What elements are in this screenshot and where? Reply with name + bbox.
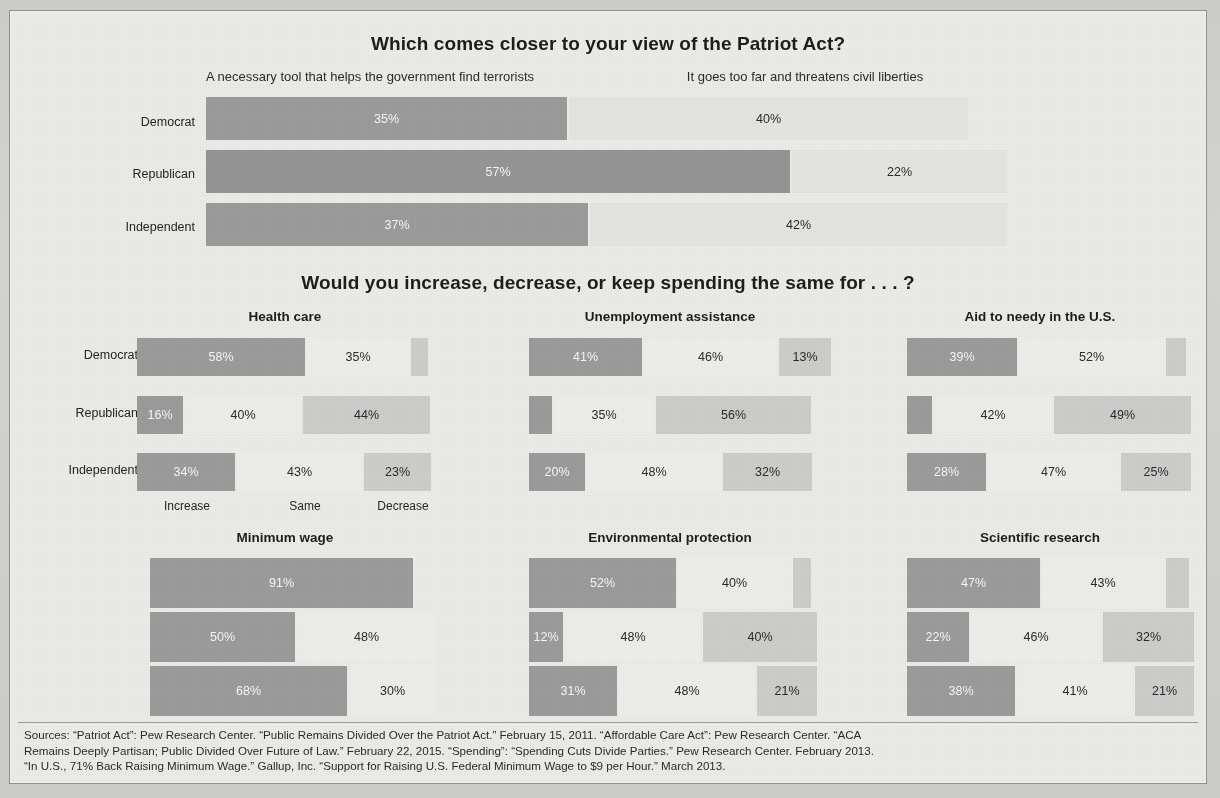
sources-line-2: Remains Deeply Partisan; Public Divided … (24, 743, 1196, 759)
panel-title-aid-needy: Aid to needy in the U.S. (890, 309, 1190, 324)
environment-independent-same: 48% (619, 666, 755, 716)
aid-needy-republican-same: 42% (934, 396, 1052, 434)
minimum-wage-republican-same: 48% (297, 612, 436, 662)
science-republican-increase: 22% (907, 612, 969, 662)
sources-divider (18, 722, 1198, 723)
patriot-bar-democrat-too-far: 40% (569, 97, 968, 140)
minimum-wage-democrat-increase: 91% (150, 558, 413, 608)
aid-needy-republican-decrease: 49% (1054, 396, 1191, 434)
spending-axis-caption-increase: Increase (137, 499, 237, 513)
sources-note: Sources: “Patriot Act”: Pew Research Cen… (24, 727, 1196, 774)
unemployment-republican-increase (529, 396, 552, 434)
minimum-wage-republican-increase: 50% (150, 612, 295, 662)
aid-needy-democrat-increase: 39% (907, 338, 1017, 376)
panel-title-unemployment: Unemployment assistance (520, 309, 820, 324)
health-care-independent-decrease: 23% (364, 453, 431, 491)
unemployment-republican-same: 35% (554, 396, 654, 434)
spending-chart-title: Would you increase, decrease, or keep sp… (10, 272, 1206, 294)
environment-independent-decrease: 21% (757, 666, 817, 716)
aid-needy-democrat-same: 52% (1019, 338, 1164, 376)
science-independent-increase: 38% (907, 666, 1015, 716)
spending-axis-caption-same: Same (255, 499, 355, 513)
spending-row-label-democrat: Democrat (20, 348, 138, 362)
environment-republican-decrease: 40% (703, 612, 817, 662)
science-independent-decrease: 21% (1135, 666, 1194, 716)
patriot-legend-right: It goes too far and threatens civil libe… (605, 69, 1005, 84)
aid-needy-independent-increase: 28% (907, 453, 986, 491)
environment-republican-increase: 12% (529, 612, 563, 662)
spending-axis-caption-decrease: Decrease (353, 499, 453, 513)
health-care-independent-increase: 34% (137, 453, 235, 491)
health-care-democrat-increase: 58% (137, 338, 305, 376)
unemployment-democrat-decrease: 13% (779, 338, 831, 376)
environment-independent-increase: 31% (529, 666, 617, 716)
patriot-bar-independent-necessary: 37% (206, 203, 588, 246)
panel-title-environment: Environmental protection (520, 530, 820, 545)
aid-needy-democrat-decrease (1166, 338, 1186, 376)
aid-needy-independent-decrease: 25% (1121, 453, 1191, 491)
environment-republican-same: 48% (565, 612, 701, 662)
patriot-legend-left: A necessary tool that helps the governme… (160, 69, 580, 84)
health-care-republican-increase: 16% (137, 396, 183, 434)
patriot-bar-democrat-necessary: 35% (206, 97, 567, 140)
patriot-bar-republican-too-far: 22% (792, 150, 1007, 193)
scanned-page: Which comes closer to your view of the P… (0, 0, 1220, 798)
science-democrat-increase: 47% (907, 558, 1040, 608)
panel-title-science: Scientific research (890, 530, 1190, 545)
health-care-independent-same: 43% (237, 453, 362, 491)
patriot-chart-title: Which comes closer to your view of the P… (10, 33, 1206, 55)
patriot-bar-republican-necessary: 57% (206, 150, 790, 193)
aid-needy-republican-increase (907, 396, 932, 434)
unemployment-independent-increase: 20% (529, 453, 585, 491)
unemployment-democrat-same: 46% (644, 338, 777, 376)
science-democrat-decrease (1166, 558, 1189, 608)
patriot-row-label-independent: Independent (70, 220, 195, 234)
minimum-wage-independent-increase: 68% (150, 666, 347, 716)
science-democrat-same: 43% (1042, 558, 1164, 608)
minimum-wage-independent-same: 30% (349, 666, 436, 716)
panel-title-minimum-wage: Minimum wage (140, 530, 430, 545)
sources-line-1: Sources: “Patriot Act”: Pew Research Cen… (24, 727, 1196, 743)
unemployment-democrat-increase: 41% (529, 338, 642, 376)
panel-title-health-care: Health care (140, 309, 430, 324)
science-republican-decrease: 32% (1103, 612, 1194, 662)
spending-row-label-independent: Independent (20, 463, 138, 477)
health-care-republican-same: 40% (185, 396, 301, 434)
unemployment-republican-decrease: 56% (656, 396, 811, 434)
sources-line-3: “In U.S., 71% Back Raising Minimum Wage.… (24, 758, 1196, 774)
environment-democrat-same: 40% (678, 558, 791, 608)
figure-frame: Which comes closer to your view of the P… (9, 10, 1207, 784)
health-care-democrat-decrease (411, 338, 428, 376)
patriot-bar-independent-too-far: 42% (590, 203, 1007, 246)
environment-democrat-decrease (793, 558, 811, 608)
science-republican-same: 46% (971, 612, 1101, 662)
unemployment-independent-decrease: 32% (723, 453, 812, 491)
patriot-row-label-democrat: Democrat (70, 115, 195, 129)
patriot-row-label-republican: Republican (70, 167, 195, 181)
environment-democrat-increase: 52% (529, 558, 676, 608)
health-care-republican-decrease: 44% (303, 396, 430, 434)
unemployment-independent-same: 48% (587, 453, 721, 491)
health-care-democrat-same: 35% (307, 338, 409, 376)
spending-row-label-republican: Republican (20, 406, 138, 420)
aid-needy-independent-same: 47% (988, 453, 1119, 491)
science-independent-same: 41% (1017, 666, 1133, 716)
